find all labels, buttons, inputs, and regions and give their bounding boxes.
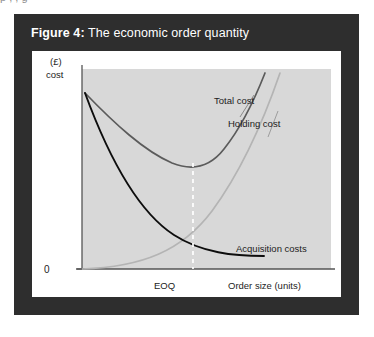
- cutoff-text-sliver: p , , g: [0, 0, 374, 9]
- y-axis-label: cost: [46, 69, 63, 80]
- eoq-chart: (£) cost 0 EOQ Order size (units) Total …: [32, 51, 341, 297]
- figure-title-prefix: Figure 4:: [31, 26, 85, 40]
- series-label-acquisition-costs: Acquisition costs: [236, 243, 307, 254]
- series-label-total-cost: Total cost: [214, 95, 254, 106]
- figure-frame: Figure 4: The economic order quantity: [14, 14, 359, 315]
- figure-title: Figure 4: The economic order quantity: [31, 26, 249, 40]
- y-axis-currency-label: (£): [50, 56, 62, 67]
- series-label-holding-cost: Holding cost: [228, 118, 280, 129]
- origin-label: 0: [44, 264, 50, 275]
- figure-title-rest: The economic order quantity: [85, 26, 249, 40]
- cutoff-text-fragment: p , , g: [0, 0, 28, 3]
- figure-panel: (£) cost 0 EOQ Order size (units) Total …: [32, 51, 341, 297]
- chart-plot-svg: [32, 51, 341, 297]
- x-tick-label-eoq: EOQ: [154, 280, 175, 291]
- x-axis-label: Order size (units): [228, 280, 301, 291]
